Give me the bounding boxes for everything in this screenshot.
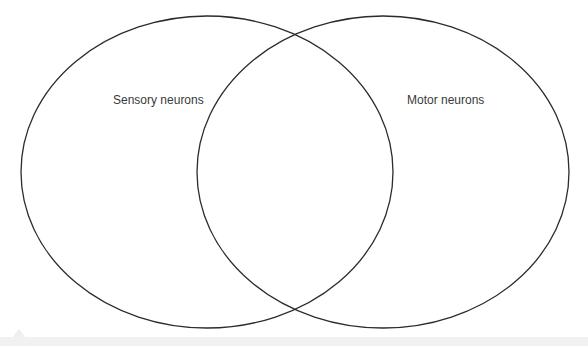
sensory-neurons-label: Sensory neurons xyxy=(113,93,204,107)
sensory-neurons-circle xyxy=(21,16,393,328)
motor-neurons-circle xyxy=(197,16,569,328)
venn-diagram xyxy=(0,0,588,346)
motor-neurons-label: Motor neurons xyxy=(407,93,484,107)
bottom-band xyxy=(0,337,588,346)
